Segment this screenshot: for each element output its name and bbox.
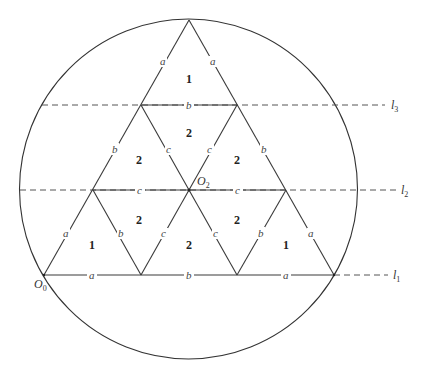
- edge-label-mid-left-inner: c: [166, 143, 171, 155]
- region-label-mid-right: 2: [234, 153, 240, 167]
- region-label-top: 1: [186, 72, 192, 86]
- point-right-vertex-marker: [333, 274, 335, 276]
- edge-label-low-center-right: c: [213, 227, 218, 239]
- edge-label-top-left: a: [160, 55, 166, 67]
- edge-label-low-left-outer: a: [63, 227, 69, 239]
- region-label-mid-left: 2: [136, 153, 142, 167]
- region-label-bottom-right: 1: [283, 238, 289, 252]
- point-o0-marker: [43, 274, 45, 276]
- triangle-circle-diagram: a a b b c c b c c a b c c b a a b a 1 2 …: [0, 0, 431, 384]
- edge-label-base-right: a: [283, 269, 289, 281]
- edge-label-top-right: a: [210, 55, 216, 67]
- edge-label-low-right-outer: a: [308, 227, 314, 239]
- line-label-l3: l3: [391, 98, 398, 114]
- region-label-mid-center: 2: [186, 126, 192, 140]
- point-label-o2: O2: [197, 174, 210, 190]
- edge-label-mid-right-outer: b: [261, 143, 267, 155]
- edge-label-low-center-left: c: [161, 227, 166, 239]
- edge-label-base-mid: b: [186, 269, 192, 281]
- region-label-low-left-inner: 2: [136, 213, 142, 227]
- line-label-l2: l2: [401, 183, 408, 199]
- edge-label-row2-left: c: [137, 184, 142, 196]
- triangle-grid: [44, 20, 334, 275]
- region-label-bottom-left: 1: [89, 238, 95, 252]
- edge-label-base-left: a: [89, 269, 95, 281]
- edge-label-row2-right: c: [235, 184, 240, 196]
- edge-label-row3-mid: b: [186, 99, 192, 111]
- point-o2-marker: [188, 189, 191, 192]
- region-label-bottom-center: 2: [186, 238, 192, 252]
- edge-label-low-right-inner: b: [258, 227, 264, 239]
- region-label-low-right-inner: 2: [234, 213, 240, 227]
- edge-label-mid-left-outer: b: [112, 143, 118, 155]
- line-label-l1: l1: [393, 268, 400, 284]
- edge-label-low-left-inner: b: [118, 227, 124, 239]
- edge-label-mid-right-inner: c: [207, 143, 212, 155]
